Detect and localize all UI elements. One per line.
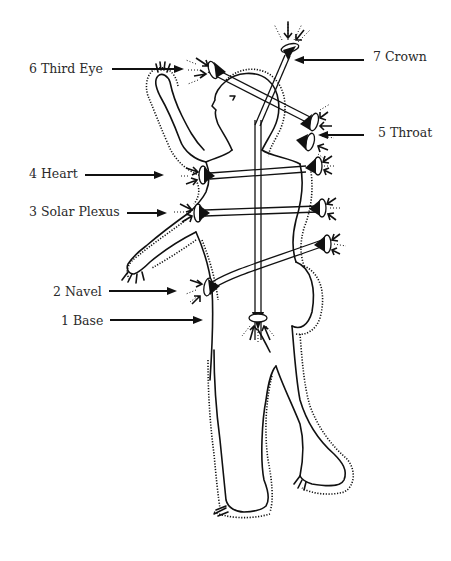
pointer-arrow-heart — [85, 171, 164, 179]
energy-channels — [205, 55, 324, 340]
pointer-arrow-crown — [294, 56, 364, 64]
pointer-arrow-base — [110, 316, 203, 324]
pointer-arrow-third-eye — [112, 65, 184, 73]
body-outline — [122, 62, 353, 518]
chakra-base-funnel — [242, 312, 274, 342]
chakra-crown-funnel — [274, 20, 310, 60]
chakra-figure-illustration — [0, 0, 451, 561]
pointer-arrow-throat — [318, 131, 364, 139]
pointer-arrow-solar-plexus — [127, 209, 167, 217]
pointer-arrow-navel — [109, 287, 177, 295]
chakra-third-eye-funnel — [186, 58, 226, 84]
